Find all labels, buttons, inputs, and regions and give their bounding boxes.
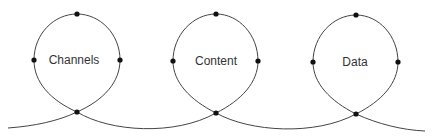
- crossing-dot: [74, 109, 79, 114]
- node-dot: [213, 11, 218, 16]
- node-dot: [395, 59, 400, 64]
- crossing-dot: [353, 111, 358, 116]
- node-dot: [310, 59, 315, 64]
- node-dot: [31, 57, 36, 62]
- node-dot: [255, 58, 260, 63]
- crossing-dot: [213, 110, 218, 115]
- loop-data: Data: [310, 12, 400, 116]
- loop-label-data: Data: [342, 55, 368, 69]
- node-dot: [170, 58, 175, 63]
- loop-channels: Channels: [31, 11, 122, 114]
- looped-diagram: Channels Content Data: [0, 0, 436, 139]
- node-dot: [117, 57, 122, 62]
- loop-content: Content: [170, 11, 260, 115]
- loop-label-channels: Channels: [49, 53, 100, 67]
- node-dot: [74, 11, 79, 16]
- node-dot: [353, 12, 358, 17]
- loop-label-content: Content: [195, 54, 238, 68]
